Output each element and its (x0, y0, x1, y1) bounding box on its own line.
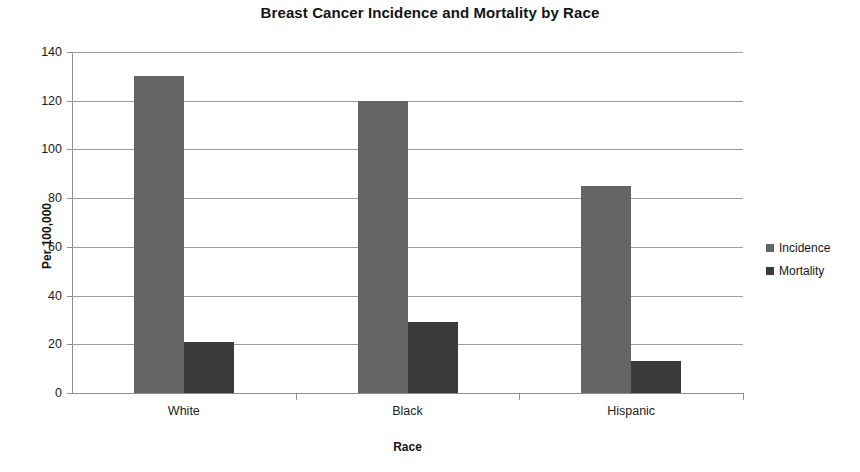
chart-legend: IncidenceMortality (766, 236, 830, 282)
x-axis-tick-label: Black (392, 404, 423, 418)
bar-mortality-hispanic (631, 361, 681, 393)
x-axis-tick-label: White (168, 404, 200, 418)
plot-area: 020406080100120140 (72, 52, 743, 393)
x-axis-tick-label: Hispanic (607, 404, 655, 418)
y-axis-tick-label: 140 (41, 45, 62, 59)
bar-chart: Breast Cancer Incidence and Mortality by… (0, 0, 860, 472)
x-axis-tick (519, 393, 520, 400)
y-axis-tick-label: 0 (55, 386, 62, 400)
y-axis-tick (67, 393, 72, 394)
y-axis-tick-label: 60 (48, 240, 62, 254)
legend-item-incidence: Incidence (766, 236, 830, 259)
gridline (72, 393, 743, 394)
gridline (72, 52, 743, 53)
bar-incidence-white (134, 76, 184, 393)
x-axis-tick (743, 393, 744, 400)
legend-swatch-icon (766, 267, 774, 275)
y-axis-tick-label: 40 (48, 289, 62, 303)
x-axis-title: Race (72, 440, 743, 454)
bar-mortality-black (408, 322, 458, 393)
y-axis-tick (67, 344, 72, 345)
y-axis-tick-label: 20 (48, 337, 62, 351)
legend-label: Incidence (779, 241, 830, 255)
bar-incidence-black (358, 101, 408, 393)
y-axis-tick (67, 52, 72, 53)
y-axis-tick (67, 198, 72, 199)
y-axis-tick (67, 296, 72, 297)
legend-swatch-icon (766, 244, 774, 252)
legend-label: Mortality (779, 264, 824, 278)
y-axis-tick (67, 101, 72, 102)
y-axis-line (72, 52, 73, 393)
x-axis-tick (296, 393, 297, 400)
legend-item-mortality: Mortality (766, 259, 830, 282)
y-axis-tick-label: 120 (41, 94, 62, 108)
chart-title: Breast Cancer Incidence and Mortality by… (0, 4, 860, 21)
y-axis-tick-label: 80 (48, 191, 62, 205)
y-axis-tick-label: 100 (41, 142, 62, 156)
y-axis-tick (67, 149, 72, 150)
y-axis-tick (67, 247, 72, 248)
bar-incidence-hispanic (581, 186, 631, 393)
bar-mortality-white (184, 342, 234, 393)
y-axis-title: Per 100,000 (40, 203, 54, 269)
